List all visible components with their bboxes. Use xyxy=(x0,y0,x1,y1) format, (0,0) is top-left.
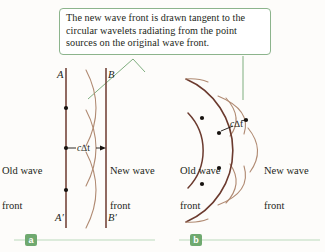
source-dot xyxy=(200,116,204,120)
old-wave-front-line-2: front xyxy=(180,200,221,212)
panel-a-new-wave-front-label: New wave front xyxy=(110,142,155,235)
panel-tag-b: b xyxy=(190,234,202,246)
ct-symbol-delta-t: ∆t xyxy=(81,142,90,153)
old-wave-front-line-1: Old wave xyxy=(180,165,221,177)
ct-symbol-delta-t: ∆t xyxy=(234,118,243,129)
wavelet-arc-2 xyxy=(248,128,258,172)
old-wave-front-line-1: Old wave xyxy=(2,165,43,177)
old-wave-front-line-2: front xyxy=(2,200,43,212)
new-wave-front-line-1: New wave xyxy=(264,165,309,177)
new-wave-front-line-1: New wave xyxy=(110,165,155,177)
new-wave-front-line-2: front xyxy=(264,200,309,212)
callout-leader-left xyxy=(88,59,145,99)
panel-b-old-wave-front-label: Old wave front xyxy=(180,142,221,235)
huygens-principle-figure: The new wave front is drawn tangent to t… xyxy=(0,0,325,252)
label-B: B xyxy=(108,69,114,80)
label-A: A xyxy=(57,69,63,80)
source-dot xyxy=(64,188,68,192)
panel-tag-a: a xyxy=(25,234,37,246)
label-A-prime: A′ xyxy=(55,212,64,223)
panel-b-ct-label: c∆t xyxy=(230,118,243,129)
panel-b-new-wave-front-label: New wave front xyxy=(264,142,309,235)
source-dot xyxy=(217,131,221,135)
source-dot xyxy=(64,106,68,110)
panel-a-old-wave-front-label: Old wave front xyxy=(2,142,43,235)
wavelet-arc-3 xyxy=(218,166,246,205)
new-wave-front-line-2: front xyxy=(110,200,155,212)
source-dot xyxy=(64,146,68,150)
panel-a-ct-label: c∆t xyxy=(77,142,90,153)
panel-b-wavelets xyxy=(218,96,258,205)
callout-text: The new wave front is drawn tangent to t… xyxy=(66,12,266,50)
